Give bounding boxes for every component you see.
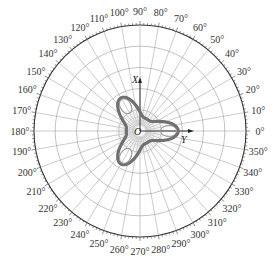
angle-tick-label: 350°	[249, 146, 268, 157]
angle-tick-label: 10°	[251, 105, 265, 116]
angle-tick-label: 120°	[71, 22, 90, 33]
angle-tick-label: 230°	[53, 217, 72, 228]
angle-tick-label: 140°	[39, 48, 58, 59]
angle-tick-label: 20°	[246, 84, 260, 95]
angle-tick-label: 250°	[89, 238, 108, 249]
angle-tick-label: 290°	[172, 238, 191, 249]
angle-tick-label: 80°	[154, 7, 168, 18]
angle-tick-label: 90°	[133, 6, 147, 17]
angle-tick-label: 60°	[193, 22, 207, 33]
angle-tick-label: 100°	[110, 7, 129, 18]
angle-tick-label: 180°	[11, 126, 30, 137]
angle-tick-label: 130°	[53, 34, 72, 45]
angle-tick-label: 270°	[131, 246, 150, 257]
angle-tick-label: 110°	[90, 13, 109, 24]
angle-tick-label: 310°	[208, 217, 227, 228]
angle-tick-label: 200°	[18, 167, 37, 178]
y-axis-arrow-icon	[188, 129, 194, 133]
angle-tick-label: 50°	[210, 34, 224, 45]
angle-tick-label: 160°	[18, 84, 37, 95]
angle-tick-label: 0°	[256, 126, 265, 137]
angle-tick-label: 260°	[110, 244, 129, 255]
angle-tick-label: 190°	[12, 146, 31, 157]
polar-chart: 0°10°20°30°40°50°60°70°80°90°100°110°120…	[0, 0, 280, 270]
x-axis-label: X	[131, 74, 139, 85]
angle-tick-label: 320°	[222, 203, 241, 214]
angle-tick-label: 170°	[12, 105, 31, 116]
angle-tick-label: 30°	[237, 66, 251, 77]
angle-tick-label: 280°	[151, 244, 170, 255]
angle-tick-label: 220°	[39, 203, 58, 214]
angle-tick-label: 240°	[71, 229, 90, 240]
angle-tick-label: 150°	[27, 66, 46, 77]
angle-tick-label: 210°	[27, 186, 46, 197]
x-axis-arrow-icon	[138, 77, 142, 83]
origin-label: O	[134, 126, 141, 137]
angle-tick-label: 40°	[225, 48, 239, 59]
angle-tick-label: 70°	[174, 13, 188, 24]
angle-tick-label: 330°	[234, 186, 253, 197]
angle-tick-label: 340°	[243, 167, 262, 178]
angle-tick-label: 300°	[191, 229, 210, 240]
